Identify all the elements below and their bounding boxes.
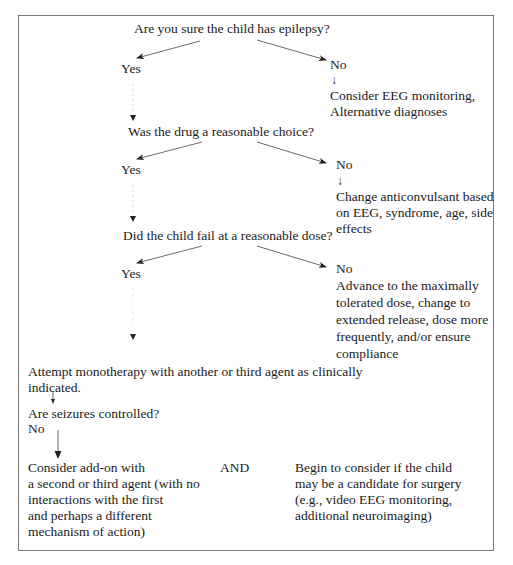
q1-no-action-line-2: Alternative diagnoses <box>330 104 447 120</box>
q3-no-label: No <box>336 261 353 277</box>
monotherapy-line-2: indicated. <box>28 380 81 396</box>
q2-no-action-line-3: effects <box>336 221 372 237</box>
q3-no-action-line-4: frequently, and/or ensure <box>336 329 470 345</box>
q1-no-down-arrow: ↓ <box>331 72 337 88</box>
q3-no-action-line-2: tolerated dose, change to <box>336 295 470 311</box>
q2-no-down-arrow: ↓ <box>337 173 343 189</box>
final-right-line-1: Begin to consider if the child <box>295 460 452 476</box>
q4-question: Are seizures controlled? <box>28 406 159 422</box>
q3-no-action-line-3: extended release, dose more <box>336 312 488 328</box>
and-connector: AND <box>220 460 249 476</box>
final-right-line-4: additional neuroimaging) <box>295 508 432 524</box>
final-left-line-2: a second or third agent (with no <box>28 476 200 492</box>
final-left-line-1: Consider add-on with <box>28 460 145 476</box>
q1-question: Are you sure the child has epilepsy? <box>134 21 330 37</box>
monotherapy-line-1: Attempt monotherapy with another or thir… <box>28 364 362 380</box>
q3-question: Did the child fail at a reasonable dose? <box>123 228 333 244</box>
q3-no-action-line-1: Advance to the maximally <box>336 278 479 294</box>
q1-no-label: No <box>330 57 347 73</box>
q3-yes-label: Yes <box>121 266 141 282</box>
q2-no-action-line-2: on EEG, syndrome, age, side <box>336 205 493 221</box>
final-right-line-3: (e.g., video EEG monitoring, <box>295 492 452 508</box>
q2-no-action-line-1: Change anticonvulsant based <box>336 189 493 205</box>
q1-yes-label: Yes <box>121 61 141 77</box>
q2-no-label: No <box>336 157 353 173</box>
q2-question: Was the drug a reasonable choice? <box>128 124 314 140</box>
final-left-line-4: and perhaps a different <box>28 508 152 524</box>
final-left-line-5: mechanism of action) <box>28 524 145 540</box>
final-left-line-3: interactions with the first <box>28 492 163 508</box>
final-right-line-2: may be a candidate for surgery <box>295 476 462 492</box>
q3-no-action-line-5: compliance <box>336 346 398 362</box>
q4-no-label: No <box>28 421 45 437</box>
q1-no-action-line-1: Consider EEG monitoring, <box>330 88 475 104</box>
q2-yes-label: Yes <box>121 162 141 178</box>
